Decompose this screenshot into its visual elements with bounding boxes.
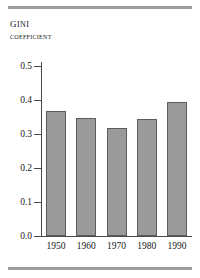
bar-1990 <box>167 102 187 236</box>
bar-1970 <box>107 128 127 236</box>
bar-1950 <box>46 111 66 236</box>
y-tick-label-wrap: 0.2 <box>0 168 32 169</box>
y-tick-label: 0.2 <box>4 163 32 173</box>
y-tick-mark <box>34 100 41 101</box>
x-tick-label: 1960 <box>69 241 103 251</box>
bottom-rule <box>8 267 192 270</box>
y-tick-mark <box>34 202 41 203</box>
y-tick-label: 0.3 <box>4 129 32 139</box>
y-tick-label-wrap: 0.1 <box>0 202 32 203</box>
y-tick-mark <box>34 134 41 135</box>
y-tick-label-wrap: 0.5 <box>0 66 32 67</box>
y-tick-label-wrap: 0.3 <box>0 134 32 135</box>
bar-1980 <box>137 119 157 236</box>
x-tick-label: 1980 <box>130 241 164 251</box>
gini-coefficient-figure: Gini coefficient 0.00.10.20.30.40.5 1950… <box>0 0 200 278</box>
x-tick-label: 1950 <box>39 241 73 251</box>
x-tick-label: 1970 <box>100 241 134 251</box>
y-tick-mark <box>34 236 41 237</box>
y-tick-label: 0.4 <box>4 95 32 105</box>
y-tick-mark <box>34 66 41 67</box>
y-tick-label: 0.1 <box>4 197 32 207</box>
plot-area: 0.00.10.20.30.40.5 19501960197019801990 <box>0 0 200 278</box>
x-tick-label: 1990 <box>160 241 194 251</box>
y-tick-label: 0.0 <box>4 231 32 241</box>
bar-group <box>41 0 192 278</box>
x-axis-labels: 19501960197019801990 <box>41 241 192 257</box>
bar-1960 <box>76 118 96 236</box>
y-tick-label: 0.5 <box>4 61 32 71</box>
y-tick-mark <box>34 168 41 169</box>
y-tick-label-wrap: 0.0 <box>0 236 32 237</box>
y-tick-label-wrap: 0.4 <box>0 100 32 101</box>
